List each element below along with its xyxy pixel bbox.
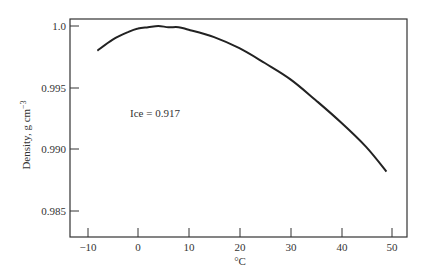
ice-density-annotation: Ice = 0.917 xyxy=(130,107,180,119)
x-tick-label: 20 xyxy=(235,241,247,253)
density-chart: 1.0 0.995 0.990 0.985 −10 0 10 20 30 40 … xyxy=(0,0,430,276)
x-tick-label: 10 xyxy=(184,241,196,253)
x-tick-label: 0 xyxy=(135,241,141,253)
density-curve xyxy=(97,26,386,172)
y-tick-label: 0.990 xyxy=(41,143,66,155)
plot-frame xyxy=(70,19,407,237)
y-axis-label: Density, g cm−3 xyxy=(19,100,32,169)
y-tick-label: 0.995 xyxy=(41,82,66,94)
x-tick-label: 30 xyxy=(286,241,298,253)
y-axis: 1.0 0.995 0.990 0.985 xyxy=(41,20,79,217)
y-tick-label: 0.985 xyxy=(41,205,66,217)
x-axis: −10 0 10 20 30 40 50 xyxy=(79,228,398,253)
x-tick-label: 50 xyxy=(387,241,399,253)
x-axis-label: °C xyxy=(234,255,246,267)
x-tick-label: −10 xyxy=(79,241,97,253)
x-tick-label: 40 xyxy=(337,241,349,253)
svg-text:Density, g cm−3: Density, g cm−3 xyxy=(19,100,32,169)
y-tick-label: 1.0 xyxy=(52,20,66,32)
